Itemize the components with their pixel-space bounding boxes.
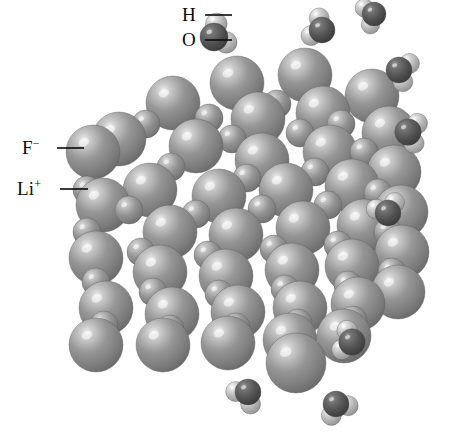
- oxygen-atom: [375, 200, 401, 226]
- fluoride-ion: [69, 318, 123, 372]
- detached-fluoride-ion: [266, 333, 326, 393]
- label-hydrogen-text: H: [182, 4, 196, 25]
- label-fluoride-charge: −: [33, 136, 40, 150]
- label-oxygen-text: O: [182, 29, 196, 50]
- label-oxygen: O: [182, 30, 196, 49]
- fluoride-ion: [66, 125, 120, 179]
- oxygen-atom: [200, 23, 228, 51]
- oxygen-atom: [362, 2, 386, 26]
- fluoride-ion: [201, 316, 255, 370]
- label-fluoride-text: F: [22, 137, 33, 158]
- label-lithium-text: Li: [17, 178, 34, 199]
- water-molecule: [226, 379, 261, 414]
- molecular-scene: [0, 0, 451, 445]
- oxygen-atom: [339, 329, 366, 356]
- label-hydrogen: H: [182, 5, 196, 24]
- oxygen-atom: [309, 17, 335, 43]
- detached-fluoride-ion: [266, 333, 326, 393]
- oxygen-atom: [386, 57, 412, 83]
- label-lithium: Li+: [17, 179, 41, 198]
- water-molecule-labeled: [200, 13, 237, 53]
- lithium-ion: [115, 196, 143, 224]
- oxygen-atom: [235, 379, 261, 405]
- fluoride-ion: [136, 318, 190, 372]
- lif-dissolution-figure: H O F− Li+: [0, 0, 451, 445]
- label-fluoride: F−: [22, 138, 40, 157]
- water-molecule: [301, 8, 335, 46]
- oxygen-atom: [323, 391, 349, 417]
- water-molecule: [355, 0, 386, 34]
- label-lithium-charge: +: [34, 177, 41, 191]
- water-molecule: [321, 391, 358, 425]
- oxygen-atom: [395, 119, 422, 146]
